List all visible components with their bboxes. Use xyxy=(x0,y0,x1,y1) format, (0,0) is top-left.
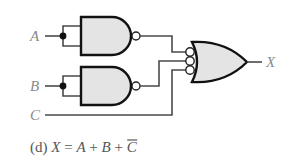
input-label-c: C xyxy=(30,107,41,123)
or-gate xyxy=(186,42,247,82)
output-label-x: X xyxy=(265,54,276,70)
caption-term-b: B xyxy=(102,139,111,155)
junction-dot-a xyxy=(60,33,67,40)
caption-plus-2: + xyxy=(111,139,127,155)
or-input-bubble-2 xyxy=(186,57,194,65)
input-label-b: B xyxy=(30,78,39,94)
logic-circuit-diagram: A B C X (d) X = A + B + C xyxy=(0,0,297,159)
wire-nand-a-to-or xyxy=(140,36,186,52)
nand-a-inversion-bubble xyxy=(132,32,140,40)
caption-prefix: (d) xyxy=(30,139,51,156)
nand-gate-b xyxy=(81,67,140,105)
input-b-wiring xyxy=(45,76,81,96)
input-a-wiring xyxy=(45,26,81,46)
nand-b-inversion-bubble xyxy=(132,82,140,90)
caption: (d) X = A + B + C xyxy=(30,139,138,156)
or-input-bubble-1 xyxy=(186,48,194,56)
caption-plus-1: + xyxy=(86,139,102,155)
nand-gate-a xyxy=(81,17,140,55)
caption-eq: = xyxy=(60,139,76,155)
wire-nand-b-to-or xyxy=(140,61,186,86)
or-input-bubble-3 xyxy=(186,66,194,74)
caption-term-c: C xyxy=(127,139,138,155)
input-label-a: A xyxy=(29,28,40,44)
junction-dot-b xyxy=(60,83,67,90)
